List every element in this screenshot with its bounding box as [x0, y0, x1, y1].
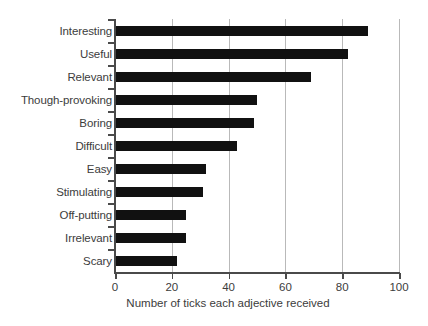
x-axis-tick-label: 60: [279, 281, 292, 294]
y-axis-tick: [108, 111, 115, 113]
x-axis-tick: [285, 273, 287, 279]
y-axis-tick: [108, 134, 115, 136]
y-axis-label: Off-putting: [0, 209, 112, 221]
y-axis-label: Relevant: [0, 71, 112, 83]
x-axis-title: Number of ticks each adjective received: [0, 297, 428, 310]
bar: [115, 187, 203, 197]
gridline-100: [399, 19, 400, 272]
bar: [115, 95, 257, 105]
bar: [115, 256, 177, 266]
y-axis-label: Difficult: [0, 140, 112, 152]
x-axis-tick: [172, 273, 174, 279]
x-axis-tick-label: 100: [389, 281, 408, 294]
x-axis-tick: [399, 273, 401, 279]
y-axis-tick: [108, 180, 115, 182]
x-axis-tick-label: 40: [222, 281, 235, 294]
plot-area: [115, 19, 399, 272]
y-axis-tick: [108, 226, 115, 228]
x-axis-title-text: Number of ticks each adjective received: [126, 297, 329, 310]
bar: [115, 164, 206, 174]
x-axis-tick-label: 20: [165, 281, 178, 294]
y-axis-label: Though-provoking: [0, 94, 112, 106]
y-axis-label: Useful: [0, 48, 112, 60]
x-axis-tick: [115, 273, 117, 279]
y-axis-tick: [108, 42, 115, 44]
y-axis-label: Stimulating: [0, 186, 112, 198]
y-axis-label: Interesting: [0, 25, 112, 37]
bar-chart: InterestingUsefulRelevantThough-provokin…: [0, 0, 428, 326]
bar: [115, 233, 186, 243]
bar: [115, 72, 311, 82]
x-axis-tick-label: 0: [112, 281, 118, 294]
y-axis-category-labels: InterestingUsefulRelevantThough-provokin…: [0, 0, 112, 326]
bar: [115, 210, 186, 220]
x-axis-tick-label: 80: [336, 281, 349, 294]
y-axis-label: Easy: [0, 163, 112, 175]
bar: [115, 49, 348, 59]
y-axis-label: Scary: [0, 255, 112, 267]
y-axis-tick: [108, 88, 115, 90]
y-axis-tick: [108, 203, 115, 205]
y-axis-label: Boring: [0, 117, 112, 129]
y-axis-line: [114, 19, 116, 273]
y-axis-tick: [108, 249, 115, 251]
bar: [115, 26, 368, 36]
y-axis-label: Irrelevant: [0, 232, 112, 244]
x-axis-tick: [229, 273, 231, 279]
x-axis-line: [114, 272, 400, 274]
y-axis-tick: [108, 157, 115, 159]
bar: [115, 118, 254, 128]
y-axis-tick: [108, 19, 115, 21]
x-axis-tick: [342, 273, 344, 279]
bar: [115, 141, 237, 151]
y-axis-tick: [108, 65, 115, 67]
